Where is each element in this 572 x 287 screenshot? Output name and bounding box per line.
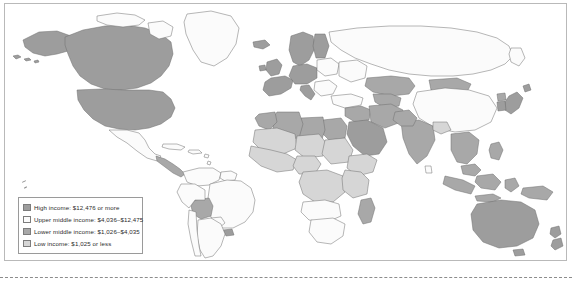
legend-swatch-high-income [23,204,31,211]
legend-label-low-income: Low income: $1,025 or less [34,240,111,247]
legend-item-high-income[interactable]: High income: $12,476 or more [23,202,139,213]
legend-item-lower-middle-income[interactable]: Lower middle income: $1,026–$4,035 [23,226,139,237]
legend-label-upper-middle-income: Upper middle income: $4,036–$12,475 [34,216,143,223]
legend-item-upper-middle-income[interactable]: Upper middle income: $4,036–$12,475 [23,214,139,225]
legend-label-high-income: High income: $12,476 or more [34,204,119,211]
region-tasmania [513,249,525,256]
region-north-korea [497,93,506,101]
legend-label-lower-middle-income: Lower middle income: $1,026–$4,035 [34,228,140,235]
page-divider-rule [0,277,572,278]
legend-item-low-income[interactable]: Low income: $1,025 or less [23,238,139,249]
region-sri-lanka [425,166,432,173]
legend-swatch-upper-middle-income [23,216,31,223]
legend-swatch-low-income [23,240,31,247]
map-panel: .hi { fill:#9d9d9d; stroke:#6f6f6f; stro… [4,3,567,261]
region-south-korea [497,101,506,111]
figure-world-income-map: .hi { fill:#9d9d9d; stroke:#6f6f6f; stro… [0,0,572,287]
income-classification-legend: High income: $12,476 or more Upper middl… [18,197,143,254]
region-guyanas [220,171,237,181]
legend-swatch-lower-middle-income [23,228,31,235]
